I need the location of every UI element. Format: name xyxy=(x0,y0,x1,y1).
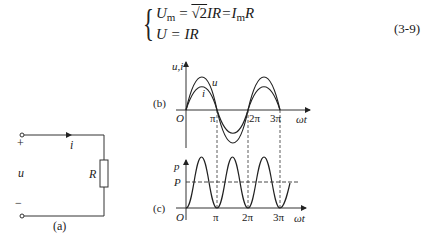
c-tick-2pi: 2π xyxy=(242,211,254,223)
minus-sign: − xyxy=(15,196,22,210)
terminal-bottom xyxy=(20,214,24,218)
figure-canvas: + − u i R (a) u,i u i (b) O π 2π 3π ωt p… xyxy=(0,0,439,240)
curve-p xyxy=(186,157,290,208)
b-y-label: u,i xyxy=(172,60,183,72)
b-tick-2pi: 2π xyxy=(249,112,261,124)
resistor xyxy=(100,160,108,187)
i-curve-label: i xyxy=(202,87,205,99)
guide-lines xyxy=(217,110,280,208)
b-x-label: ωt xyxy=(296,113,308,125)
resistor-label: R xyxy=(88,167,97,181)
figure-b-caption: (b) xyxy=(153,97,166,110)
c-x-label: ωt xyxy=(294,212,306,224)
c-origin: O xyxy=(176,211,184,223)
u-curve-label: u xyxy=(212,76,218,88)
avg-power-label: P xyxy=(173,176,181,188)
figure-a-caption: (a) xyxy=(53,219,66,233)
c-y-label: p xyxy=(173,160,180,172)
current-label: i xyxy=(70,138,73,152)
c-tick-3pi: 3π xyxy=(273,211,285,223)
waveform-ui-plot xyxy=(176,62,310,148)
figure-c-caption: (c) xyxy=(153,202,166,215)
power-plot xyxy=(176,157,306,220)
b-tick-pi: π xyxy=(210,112,216,124)
plus-sign: + xyxy=(17,136,24,150)
c-tick-pi: π xyxy=(213,211,219,223)
b-origin: O xyxy=(176,112,184,124)
voltage-label: u xyxy=(18,166,24,180)
